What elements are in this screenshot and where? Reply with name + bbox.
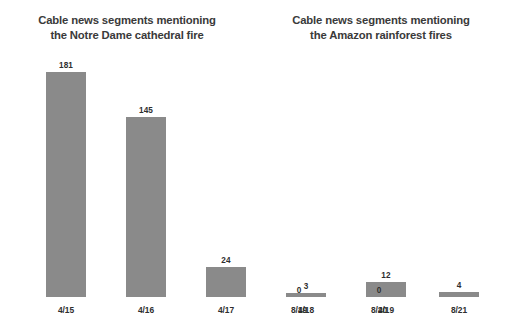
bar-notre-dame-4-17: 24: [206, 256, 246, 298]
plot-area-notre-dame: 1814/151454/16244/1734/18124/19: [0, 0, 254, 336]
chart-panel-amazon: Cable news segments mentioning the Amazo…: [254, 0, 508, 336]
dual-bar-chart-figure: Cable news segments mentioning the Notre…: [0, 0, 508, 336]
bar-value-label: 181: [59, 61, 73, 70]
plot-area-amazon: 08/1908/2048/21108/22118/23: [254, 0, 508, 336]
bar-rect: [126, 117, 166, 297]
bar-value-label: 4: [457, 281, 462, 290]
bar-amazon-8-21: 4: [439, 281, 479, 298]
x-tick-amazon-8-21: 8/21: [439, 305, 479, 315]
x-tick-amazon-8-20: 8/20: [359, 305, 399, 315]
bar-value-label: 0: [377, 286, 382, 295]
x-tick-notre-dame-4-16: 4/16: [126, 305, 166, 315]
bar-rect: [46, 72, 86, 297]
bar-notre-dame-4-16: 145: [126, 106, 166, 298]
x-tick-amazon-8-19: 8/19: [279, 305, 319, 315]
bar-amazon-8-19: 0: [279, 286, 319, 298]
bar-rect: [439, 292, 479, 297]
bar-notre-dame-4-15: 181: [46, 61, 86, 298]
bar-value-label: 0: [297, 286, 302, 295]
bar-value-label: 145: [139, 106, 153, 115]
bar-value-label: 24: [221, 256, 230, 265]
bar-rect: [206, 267, 246, 297]
x-tick-notre-dame-4-17: 4/17: [206, 305, 246, 315]
bar-amazon-8-20: 0: [359, 286, 399, 298]
x-tick-notre-dame-4-15: 4/15: [46, 305, 86, 315]
chart-panel-notre-dame: Cable news segments mentioning the Notre…: [0, 0, 254, 336]
